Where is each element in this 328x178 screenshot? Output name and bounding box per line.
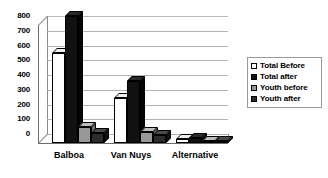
bar-total-after[interactable] (189, 138, 202, 143)
y-tick-label: 700 (4, 27, 30, 35)
bar-youth-after[interactable] (153, 135, 166, 143)
y-tick-label: 100 (4, 115, 30, 123)
y-tick-label: 800 (4, 12, 30, 20)
bar-youth-before[interactable] (78, 127, 91, 143)
bar-youth-before[interactable] (140, 132, 153, 143)
chart-legend: Total Before Total after Youth before Yo… (247, 57, 322, 108)
bar-youth-after[interactable] (91, 133, 104, 143)
legend-swatch-total-after (251, 74, 257, 80)
legend-label: Total after (260, 72, 297, 81)
legend-swatch-total-before (251, 63, 257, 69)
bar-total-after[interactable] (127, 81, 140, 143)
x-axis-line (38, 143, 228, 144)
legend-item-total-after[interactable]: Total after (251, 71, 318, 82)
y-tick-label: 200 (4, 101, 30, 109)
bar-youth-after[interactable] (215, 141, 228, 143)
legend-label: Total Before (260, 61, 305, 70)
y-axis: 800 700 600 500 400 300 200 100 0 (0, 0, 30, 178)
y-tick-label: 500 (4, 56, 30, 64)
legend-swatch-youth-before (251, 85, 257, 91)
plot-area: 800 700 600 500 400 300 200 100 0 (0, 0, 240, 178)
bar-group-van-nuys (114, 16, 172, 143)
bar-youth-before[interactable] (202, 141, 215, 143)
x-tick-label-balboa: Balboa (38, 150, 100, 160)
legend-item-youth-before[interactable]: Youth before (251, 82, 318, 93)
bar-total-before[interactable] (176, 139, 189, 143)
bar-chart: 800 700 600 500 400 300 200 100 0 (0, 0, 328, 178)
legend-label: Youth after (260, 94, 301, 103)
y-tick-label: 600 (4, 42, 30, 50)
bar-total-before[interactable] (52, 53, 65, 143)
x-tick-label-alternative: Alternative (162, 150, 228, 160)
bar-group-balboa (52, 16, 110, 143)
bar-total-before[interactable] (114, 98, 127, 143)
bar-total-after[interactable] (65, 16, 78, 143)
y-tick-label: 400 (4, 71, 30, 79)
legend-item-total-before[interactable]: Total Before (251, 60, 318, 71)
bars-layer (38, 16, 228, 143)
y-tick-label: 0 (4, 130, 30, 138)
legend-label: Youth before (260, 83, 308, 92)
legend-swatch-youth-after (251, 96, 257, 102)
bar-group-alternative (176, 16, 234, 143)
legend-item-youth-after[interactable]: Youth after (251, 93, 318, 104)
y-tick-label: 300 (4, 86, 30, 94)
x-tick-label-van-nuys: Van Nuys (100, 150, 162, 160)
